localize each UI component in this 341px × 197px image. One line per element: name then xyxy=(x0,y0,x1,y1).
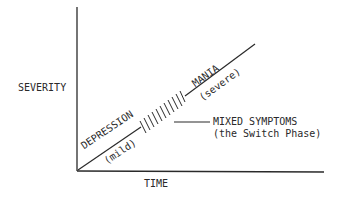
switch-phase-hatch xyxy=(140,91,185,133)
x-axis xyxy=(77,171,324,172)
mixed-symptoms-label: MIXED SYMPTOMS xyxy=(213,116,297,127)
x-axis-label: TIME xyxy=(144,178,168,189)
y-axis-label: SEVERITY xyxy=(18,82,66,93)
diagram-canvas xyxy=(0,0,341,197)
mixed-symptoms-sublabel: (the Switch Phase) xyxy=(213,128,321,139)
